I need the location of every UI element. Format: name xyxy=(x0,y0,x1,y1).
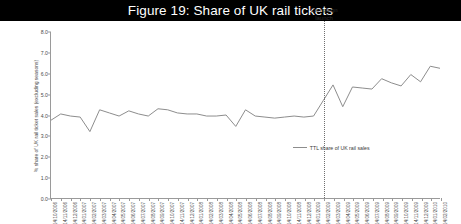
x-axis-tick-mark xyxy=(178,198,179,201)
x-axis-tick-label: 14/01/2009 xyxy=(316,202,321,224)
page-title: Figure 19: Share of UK rail tickets xyxy=(128,3,333,18)
y-axis-title: % share of UK rail ticket sales (excludi… xyxy=(31,32,41,199)
plot-area: 0.01.02.03.04.05.06.07.08.0 14/10/200614… xyxy=(50,32,440,199)
x-axis-tick-label: 14/06/2007 xyxy=(131,202,136,224)
x-axis-tick-mark xyxy=(295,198,296,201)
x-axis-tick-label: 14/01/2007 xyxy=(82,202,87,224)
x-axis-tick-mark xyxy=(158,198,159,201)
chart-container: % share of UK rail ticket sales (excludi… xyxy=(0,21,461,224)
x-axis-tick-label: 14/07/2007 xyxy=(141,202,146,224)
x-axis-tick-mark xyxy=(61,198,62,201)
chart-legend: TTL share of UK rail sales xyxy=(293,145,370,151)
x-axis-tick-label: 14/03/2009 xyxy=(336,202,341,224)
x-axis-tick-label: 14/02/2009 xyxy=(326,202,331,224)
x-axis-tick-mark xyxy=(168,198,169,201)
x-axis-tick-mark xyxy=(129,198,130,201)
x-axis-tick-mark xyxy=(363,198,364,201)
x-axis-tick-mark xyxy=(256,198,257,201)
x-axis-tick-mark xyxy=(110,198,111,201)
x-axis-tick-mark xyxy=(90,198,91,201)
series-line-chart xyxy=(51,32,440,198)
x-axis-tick-mark xyxy=(139,198,140,201)
x-axis-tick-label: 14/09/2007 xyxy=(160,202,165,224)
x-axis-tick-label: 14/03/2007 xyxy=(102,202,107,224)
x-axis-tick-label: 14/05/2007 xyxy=(121,202,126,224)
x-axis-tick-label: 14/12/2008 xyxy=(307,202,312,224)
x-axis-tick-mark xyxy=(51,198,52,201)
x-axis-tick-label: 14/02/2007 xyxy=(92,202,97,224)
x-axis-tick-mark xyxy=(197,198,198,201)
x-axis-tick-mark xyxy=(383,198,384,201)
x-axis-tick-label: 14/09/2009 xyxy=(394,202,399,224)
x-axis-tick-label: 14/08/2009 xyxy=(385,202,390,224)
x-axis-tick-mark xyxy=(217,198,218,201)
x-axis-tick-label: 14/10/2009 xyxy=(404,202,409,224)
x-axis-tick-mark xyxy=(402,198,403,201)
x-axis-tick-mark xyxy=(207,198,208,201)
x-axis-tick-mark xyxy=(344,198,345,201)
x-axis-tick-label: 14/04/2007 xyxy=(112,202,117,224)
x-axis-tick-mark xyxy=(80,198,81,201)
x-axis-tick-mark xyxy=(314,198,315,201)
x-axis-tick-label: 14/11/2008 xyxy=(297,202,302,224)
x-axis-tick-mark xyxy=(305,198,306,201)
series-line xyxy=(51,66,440,131)
campaign-launch-label: Campaign launch xyxy=(310,7,337,22)
x-axis-tick-mark xyxy=(100,198,101,201)
x-axis-tick-mark xyxy=(71,198,72,201)
x-axis-tick-mark xyxy=(188,198,189,201)
legend-swatch-icon xyxy=(293,147,307,148)
legend-entry-label: TTL share of UK rail sales xyxy=(310,145,370,151)
x-axis-tick-mark xyxy=(431,198,432,201)
x-axis-tick-label: 14/01/2010 xyxy=(433,202,438,224)
y-axis-title-text: % share of UK rail ticket sales (excludi… xyxy=(33,59,39,171)
x-axis-tick-label: 14/04/2008 xyxy=(229,202,234,224)
x-axis-tick-mark xyxy=(373,198,374,201)
x-axis-tick-label: 14/11/2007 xyxy=(180,202,185,224)
x-axis-tick-label: 14/10/2006 xyxy=(53,202,58,224)
x-axis-tick-label: 14/01/2008 xyxy=(199,202,204,224)
x-axis-tick-mark xyxy=(392,198,393,201)
x-axis-tick-mark xyxy=(149,198,150,201)
x-axis-tick-label: 14/11/2009 xyxy=(414,202,419,224)
x-axis-tick-mark xyxy=(422,198,423,201)
x-axis-tick-label: 14/08/2007 xyxy=(151,202,156,224)
x-axis-tick-label: 14/02/2010 xyxy=(443,202,448,224)
x-axis-tick-label: 14/10/2008 xyxy=(287,202,292,224)
x-axis-tick-mark xyxy=(119,198,120,201)
x-axis-tick-mark xyxy=(441,198,442,201)
x-axis-tick-mark xyxy=(246,198,247,201)
x-axis-tick-label: 14/07/2008 xyxy=(258,202,263,224)
x-axis-tick-label: 14/12/2009 xyxy=(424,202,429,224)
x-axis-tick-label: 14/08/2008 xyxy=(268,202,273,224)
x-axis-tick-label: 14/06/2009 xyxy=(365,202,370,224)
x-axis-tick-label: 14/04/2009 xyxy=(346,202,351,224)
x-axis-tick-label: 14/11/2006 xyxy=(63,202,68,224)
x-axis-tick-label: 14/09/2008 xyxy=(277,202,282,224)
x-axis-tick-mark xyxy=(266,198,267,201)
x-axis-tick-label: 14/03/2008 xyxy=(219,202,224,224)
campaign-launch-line xyxy=(324,21,325,198)
x-axis-tick-label: 14/12/2007 xyxy=(190,202,195,224)
x-axis-tick-label: 14/10/2007 xyxy=(170,202,175,224)
x-axis-tick-label: 14/07/2009 xyxy=(375,202,380,224)
x-axis-tick-label: 14/12/2006 xyxy=(73,202,78,224)
x-axis-tick-mark xyxy=(227,198,228,201)
x-axis-tick-label: 14/06/2008 xyxy=(248,202,253,224)
x-axis-tick-mark xyxy=(412,198,413,201)
x-axis-tick-label: 14/05/2009 xyxy=(355,202,360,224)
figure-title-bar: Figure 19: Share of UK rail tickets xyxy=(0,0,461,21)
x-axis-tick-mark xyxy=(334,198,335,201)
x-axis-tick-mark xyxy=(353,198,354,201)
x-axis-tick-mark xyxy=(324,198,325,201)
campaign-label-line2: launch xyxy=(310,15,337,23)
x-axis-tick-label: 14/05/2008 xyxy=(238,202,243,224)
x-axis-tick-label: 14/02/2008 xyxy=(209,202,214,224)
campaign-label-line1: Campaign xyxy=(310,7,337,15)
x-axis-tick-mark xyxy=(275,198,276,201)
x-axis-tick-mark xyxy=(236,198,237,201)
x-axis-tick-mark xyxy=(285,198,286,201)
